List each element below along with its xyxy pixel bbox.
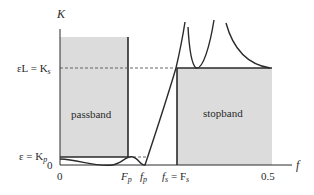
y-axis-label: K (56, 7, 66, 21)
passband-label: passband (71, 108, 112, 120)
stop-level-label: εL = Ks (17, 62, 51, 76)
half-label: 0.5 (261, 170, 275, 182)
Fp-label: Fp (120, 170, 132, 184)
x-axis-label: f (296, 158, 301, 172)
fs-label: fs = Fs (162, 170, 189, 184)
response-curve-lobe (188, 20, 214, 68)
stopband-label: stopband (203, 107, 243, 119)
pass-level-label: ε = Kp (19, 150, 47, 164)
response-curve-tail (226, 23, 270, 68)
passband-region (60, 37, 128, 157)
x-zero-label: 0 (57, 170, 63, 182)
fp-label: fp (140, 170, 147, 184)
y-zero-label: 0 (47, 159, 53, 171)
filter-spec-diagram: K f εL = Ks ε = Kp 0 0 Fp fp fs = Fs 0.5… (0, 0, 314, 195)
